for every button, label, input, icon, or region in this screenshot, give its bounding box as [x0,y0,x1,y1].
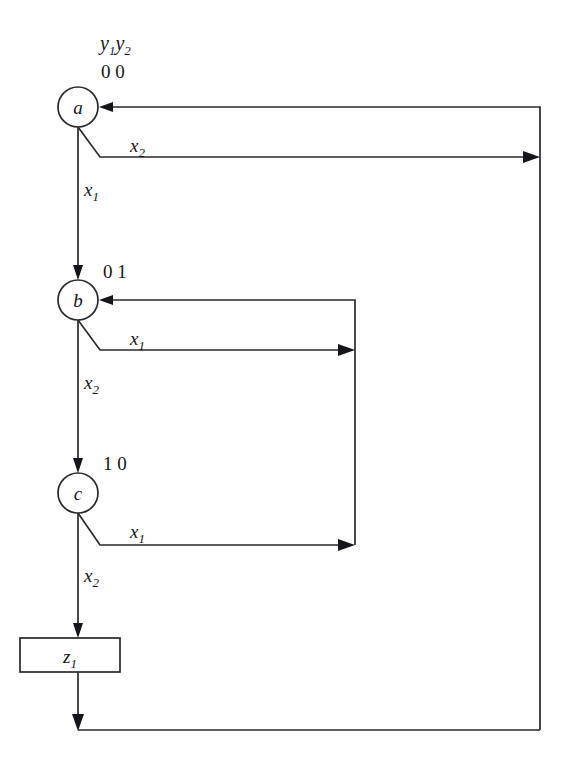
state-b-code: 0 1 [103,261,127,282]
transition-b-to-c [73,320,83,473]
arrowhead-c-x1 [338,539,355,551]
edge-label-b-x2-sub: 2 [92,382,99,397]
branch-b-x1-line [78,320,345,350]
state-diagram-svg: outer return (x=540) ============ --> in… [0,0,565,771]
branch-c-x1 [78,513,355,551]
state-node-b[interactable]: b [58,280,98,320]
edge-label-c-x2: x2 [83,565,99,590]
edge-label-b-x1-sub: 1 [138,338,145,353]
arrowhead-output-to-return [72,714,84,731]
edge-label-c-x2-sub: 2 [92,575,99,590]
inner-return-line [106,300,355,545]
state-var-1-letter: y [98,32,109,55]
edge-label-c-x1-sub: 1 [138,531,145,546]
state-variable-header: y1y2 0 0 [98,32,131,82]
state-node-a[interactable]: a [58,87,98,127]
state-b-label: b [73,290,83,311]
branch-a-x2 [78,127,540,163]
branch-c-x1-line [78,513,345,545]
state-diagram-canvas: outer return (x=540) ============ --> in… [0,0,565,771]
edge-label-a-x2-sub: 2 [138,145,145,160]
state-c-code: 1 0 [103,453,127,474]
arrowhead-a-to-b [73,265,83,280]
transition-c-to-output [73,513,83,638]
state-var-2-sub: 2 [124,43,131,58]
arrowhead-a-x2 [523,151,540,163]
edge-label-a-x1-sub: 1 [92,189,99,204]
arrowhead-b-to-c [73,458,83,473]
branch-a-x2-line [78,127,530,157]
edge-label-a-x1: x1 [83,179,99,204]
transition-output-to-return [72,672,84,731]
state-c-label: c [74,483,83,504]
branch-b-x1 [78,320,355,356]
arrowhead-b-x1 [338,344,355,356]
state-a-code: 0 0 [101,61,125,82]
outer-return-path [78,102,540,730]
arrowhead-into-state-a [99,102,113,112]
output-box-z1[interactable]: z1 [20,638,120,672]
outer-return-line [106,107,540,730]
arrowhead-c-to-output [73,623,83,638]
state-vars-label: y1y2 [98,32,131,58]
edge-label-c-x1: x1 [129,521,145,546]
edge-label-b-x2: x2 [83,372,99,397]
state-a-label: a [73,97,83,118]
transition-a-to-b [73,127,83,280]
state-node-c[interactable]: c [58,473,98,513]
output-box-sub: 1 [70,656,77,671]
state-var-2-letter: y [113,32,124,55]
arrowhead-into-state-b [99,295,113,305]
